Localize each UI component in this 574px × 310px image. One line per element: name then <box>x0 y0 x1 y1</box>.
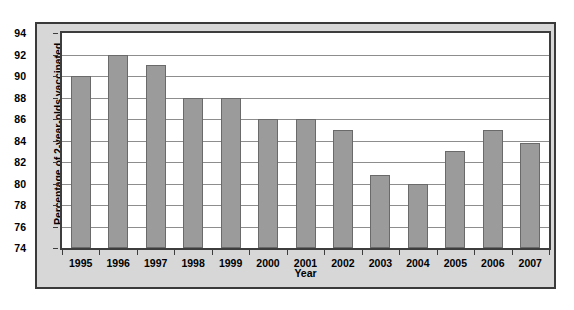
x-axis-title: Year <box>60 267 551 279</box>
y-axis-tick-label: 86 <box>0 113 26 125</box>
gridline <box>62 55 549 56</box>
x-axis-tick-mark <box>212 250 213 255</box>
y-axis-tick-label: 76 <box>0 221 26 233</box>
y-axis-tick-label: 94 <box>0 27 26 39</box>
y-axis-tick-mark <box>53 227 58 228</box>
bar-2004 <box>408 184 428 249</box>
y-axis-tick-mark <box>53 162 58 163</box>
y-axis-tick-label: 88 <box>0 92 26 104</box>
x-axis-tick-mark <box>474 250 475 255</box>
x-axis-tick-mark <box>512 250 513 255</box>
y-axis-tick-mark <box>53 205 58 206</box>
x-axis-tick-mark <box>249 250 250 255</box>
x-axis-tick-mark <box>137 250 138 255</box>
x-axis-tick-mark <box>99 250 100 255</box>
y-axis-tick-mark <box>53 33 58 34</box>
bar-2005 <box>445 151 465 248</box>
y-axis-tick-label: 84 <box>0 135 26 147</box>
y-axis-tick-label: 74 <box>0 242 26 254</box>
x-axis-tick-mark <box>399 250 400 255</box>
bar-1997 <box>146 65 166 248</box>
y-axis-tick-mark <box>53 119 58 120</box>
gridline <box>62 76 549 77</box>
bar-2001 <box>296 119 316 248</box>
plot-area <box>60 31 551 250</box>
bar-2002 <box>333 130 353 248</box>
y-axis-tick-label: 78 <box>0 199 26 211</box>
bar-2003 <box>370 175 390 248</box>
bar-1999 <box>221 98 241 249</box>
x-axis-tick-mark <box>287 250 288 255</box>
y-axis-tick-label: 80 <box>0 178 26 190</box>
bar-1996 <box>108 55 128 249</box>
x-axis-tick-mark <box>174 250 175 255</box>
bar-2007 <box>520 143 540 248</box>
y-axis-tick-label: 92 <box>0 49 26 61</box>
x-axis-tick-mark <box>362 250 363 255</box>
bar-2000 <box>258 119 278 248</box>
x-axis-tick-mark <box>437 250 438 255</box>
y-axis-tick-mark <box>53 184 58 185</box>
x-axis-tick-mark <box>324 250 325 255</box>
y-axis-tick-label: 90 <box>0 70 26 82</box>
bar-1995 <box>71 76 91 248</box>
y-axis-tick-mark <box>53 98 58 99</box>
y-axis-tick-label: 82 <box>0 156 26 168</box>
chart-figure: Percentage of 2-year-olds vaccinated 747… <box>35 22 556 289</box>
y-axis-tick-mark <box>53 248 58 249</box>
y-axis-tick-mark <box>53 76 58 77</box>
x-axis-tick-mark <box>549 250 550 255</box>
gridline <box>62 98 549 99</box>
bar-2006 <box>483 130 503 248</box>
y-axis-tick-mark <box>53 55 58 56</box>
y-axis-tick-mark <box>53 141 58 142</box>
x-axis-tick-mark <box>62 250 63 255</box>
bar-1998 <box>183 98 203 249</box>
